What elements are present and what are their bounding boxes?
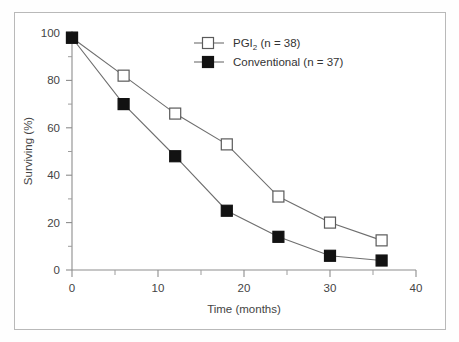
x-tick-label-10: 10 [152, 282, 165, 294]
y-axis-minor-ticks [68, 57, 72, 247]
chart-legend: PGI2 (n = 38) Conventional (n = 37) [194, 37, 343, 68]
legend-label-pgi2-main: PGI [233, 37, 253, 49]
y-tick-label-0: 0 [54, 264, 60, 276]
legend-marker-open-square-icon [203, 38, 214, 49]
y-tick-label-20: 20 [47, 217, 60, 229]
y-axis-title: Surviving (%) [22, 117, 34, 186]
y-tick-label-40: 40 [47, 169, 60, 181]
data-point-marker [221, 205, 232, 216]
legend-label-conventional: Conventional (n = 37) [233, 56, 343, 68]
data-point-marker [376, 235, 387, 246]
data-point-marker [170, 151, 181, 162]
data-point-marker [170, 108, 181, 119]
data-point-marker [118, 99, 129, 110]
legend-marker-filled-square-icon [203, 57, 214, 68]
y-tick-label-60: 60 [47, 122, 60, 134]
data-point-marker [325, 250, 336, 261]
x-axis-title: Time (months) [207, 303, 281, 315]
data-point-marker [273, 191, 284, 202]
x-tick-label-0: 0 [69, 282, 75, 294]
y-tick-label-100: 100 [41, 27, 60, 39]
data-point-marker [118, 70, 129, 81]
data-point-marker [273, 231, 284, 242]
data-point-marker [221, 139, 232, 150]
survival-chart: 0 20 40 60 80 100 Surviving (%) 0 10 20 … [0, 0, 459, 342]
y-tick-label-80: 80 [47, 74, 60, 86]
x-tick-label-20: 20 [238, 282, 251, 294]
data-point-marker [325, 217, 336, 228]
legend-label-pgi2-tail: (n = 38) [257, 37, 300, 49]
x-tick-label-40: 40 [410, 282, 423, 294]
x-tick-label-30: 30 [324, 282, 337, 294]
figure-container: 0 20 40 60 80 100 Surviving (%) 0 10 20 … [0, 0, 459, 342]
x-axis-major-ticks [72, 270, 416, 277]
data-point-marker [67, 32, 78, 43]
data-point-marker [376, 255, 387, 266]
legend-label-pgi2: PGI2 (n = 38) [233, 37, 301, 52]
